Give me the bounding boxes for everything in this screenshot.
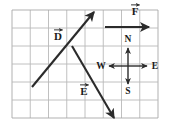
- vector-e-label: E: [80, 85, 87, 97]
- compass-north-label: N: [125, 34, 132, 44]
- compass-east-label: E: [152, 61, 158, 71]
- diagram-canvas: NSEW DEF: [0, 0, 169, 128]
- compass-rose: NSEW: [96, 34, 158, 96]
- compass-south-label: S: [125, 86, 130, 96]
- vector-f-label: F: [132, 5, 139, 17]
- vector-d-label: D: [54, 30, 62, 42]
- compass-west-label: W: [96, 61, 106, 71]
- vector-diagram-figure: NSEW DEF: [0, 0, 169, 128]
